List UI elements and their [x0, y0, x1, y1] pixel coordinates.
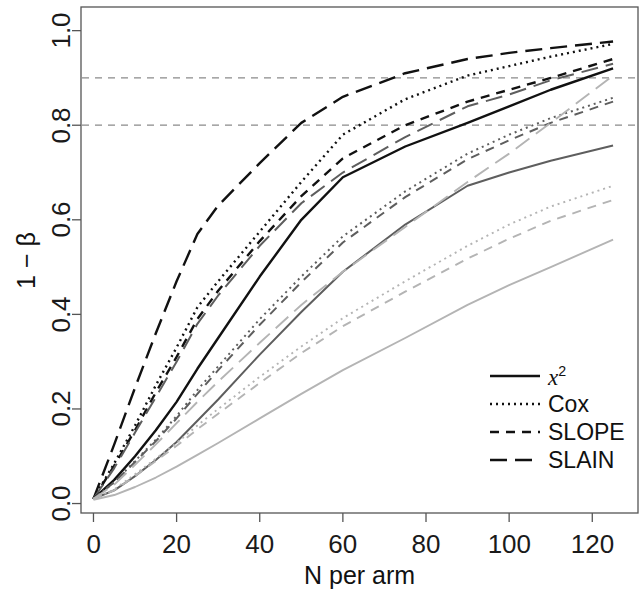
curve-Cox-small — [93, 186, 613, 499]
curve-Cox-medium — [93, 98, 613, 499]
x-tick-label-120: 120 — [571, 529, 614, 560]
x-tick-label-20: 20 — [162, 529, 191, 560]
y-axis-title: 1 − β — [11, 232, 40, 289]
x-axis-title: N per arm — [304, 561, 415, 590]
curve-SLOPE-small — [93, 200, 613, 499]
legend-label-slain: SLAIN — [548, 447, 614, 474]
legend-label-chi2: x2 — [548, 363, 566, 391]
y-tick-label-0.8: 0.8 — [46, 107, 77, 143]
legend-label-slope: SLOPE — [548, 419, 625, 446]
y-tick-label-0.6: 0.6 — [46, 202, 77, 238]
curve-Cox-large — [93, 44, 613, 499]
curve-chi2-medium — [93, 146, 613, 499]
y-tick-label-0.0: 0.0 — [46, 485, 77, 521]
power-curve-figure: 020406080100120 0.00.20.40.60.81.0 N per… — [0, 0, 643, 593]
curve-chi2-large — [93, 68, 613, 498]
curve-SLOPE-medium — [93, 102, 613, 499]
curve-SLAIN-small — [93, 76, 613, 499]
reference-lines-group — [82, 78, 638, 125]
x-tick-label-80: 80 — [412, 529, 441, 560]
plot-canvas — [0, 0, 643, 593]
curve-SLAIN-large — [93, 42, 613, 499]
legend-chi2-base: x — [548, 365, 558, 390]
curve-paths-group — [93, 42, 613, 500]
curve-SLOPE-large — [93, 59, 613, 499]
x-tick-label-0: 0 — [86, 529, 100, 560]
legend-label-cox: Cox — [548, 391, 589, 418]
y-tick-label-0.2: 0.2 — [46, 391, 77, 427]
legend-chi2-exponent: 2 — [558, 363, 566, 379]
legend-sample-lines — [490, 376, 540, 460]
y-tick-label-1.0: 1.0 — [46, 13, 77, 49]
x-tick-label-60: 60 — [328, 529, 357, 560]
x-tick-label-40: 40 — [245, 529, 274, 560]
y-tick-label-0.4: 0.4 — [46, 296, 77, 332]
x-tick-label-100: 100 — [488, 529, 531, 560]
